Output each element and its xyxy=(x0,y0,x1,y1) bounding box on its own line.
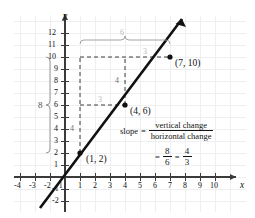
formula-equals: = xyxy=(141,126,146,136)
slope-result: = 8 6 = 4 3 xyxy=(152,146,192,167)
y-tick-label-4: 4 xyxy=(54,125,58,133)
slope-formula: slope = vertical change horizontal chang… xyxy=(120,120,213,141)
data-point-7-10 xyxy=(167,54,172,59)
y-tick-label-6: 6 xyxy=(54,101,58,109)
x-tick-label-1: 1 xyxy=(78,182,82,190)
x-tick-label-3: 3 xyxy=(108,182,112,190)
result-equals-2: = xyxy=(175,152,180,162)
y-tick-label-2: 2 xyxy=(54,149,58,157)
fraction-4-3-denominator: 3 xyxy=(185,157,190,167)
y-tick-label-9: 9 xyxy=(54,65,58,73)
run-label-upper: 3 xyxy=(143,48,147,56)
y-tick-label-10: 10 xyxy=(48,53,56,61)
fraction-8-6-denominator: 6 xyxy=(165,157,170,167)
x-tick-label-5: 5 xyxy=(138,182,142,190)
fraction-8-6-numerator: 8 xyxy=(165,146,170,156)
y-tick-label--1: -1 xyxy=(52,185,59,193)
data-point-1-2 xyxy=(77,150,82,155)
fraction-denominator: horizontal change xyxy=(149,131,214,141)
x-tick-label-8: 8 xyxy=(183,182,187,190)
plotted-line xyxy=(40,19,182,208)
x-tick-label--4: -4 xyxy=(14,182,21,190)
slope-diagram: y x -4 -3 -2 -1 1 2 3 4 5 6 7 8 9 10 12 … xyxy=(0,0,255,218)
point-label-1-2: (1, 2) xyxy=(86,155,107,165)
brace-label-vertical-total: 8 xyxy=(38,101,43,110)
data-point-4-6 xyxy=(122,102,127,107)
x-tick-label-10: 10 xyxy=(210,182,218,190)
x-axis-arrow xyxy=(230,174,236,180)
x-axis-label: x xyxy=(240,181,244,191)
x-tick-label-7: 7 xyxy=(168,182,172,190)
x-tick-label-2: 2 xyxy=(93,182,97,190)
x-tick-label--3: -3 xyxy=(29,182,36,190)
rise-label-lower: 4 xyxy=(70,125,74,133)
run-label-lower: 3 xyxy=(98,96,102,104)
fraction-4-3-numerator: 4 xyxy=(185,146,190,156)
y-tick-label-1: 1 xyxy=(54,161,58,169)
slope-word: slope xyxy=(120,126,138,136)
brace-label-horizontal-total: 6 xyxy=(120,29,124,37)
y-tick-label--2: -2 xyxy=(52,197,59,205)
y-tick-label-3: 3 xyxy=(54,137,58,145)
y-tick-label-12: 12 xyxy=(48,29,56,37)
fraction-4-3: 4 3 xyxy=(183,146,192,167)
point-label-7-10: (7, 10) xyxy=(175,59,200,69)
x-tick-label-6: 6 xyxy=(153,182,157,190)
y-tick-label-11: 11 xyxy=(48,41,56,49)
slope-fraction: vertical change horizontal change xyxy=(149,120,214,141)
y-tick-label-5: 5 xyxy=(54,113,58,121)
fraction-8-6: 8 6 xyxy=(163,146,172,167)
fraction-numerator: vertical change xyxy=(153,120,209,130)
y-tick-label-7: 7 xyxy=(54,89,58,97)
x-tick-label--2: -2 xyxy=(44,182,51,190)
rise-label-upper: 4 xyxy=(115,77,119,85)
point-label-4-6: (4, 6) xyxy=(130,107,151,117)
y-axis-label: y xyxy=(63,12,67,22)
x-tick-label-9: 9 xyxy=(198,182,202,190)
y-tick-label-8: 8 xyxy=(54,77,58,85)
x-tick-label-4: 4 xyxy=(123,182,127,190)
result-equals-1: = xyxy=(155,152,160,162)
